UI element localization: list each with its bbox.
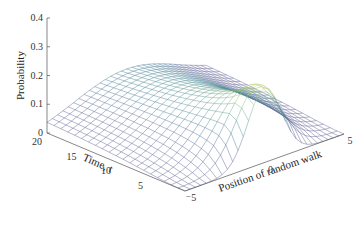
- mesh-line: [174, 97, 179, 101]
- mesh-line: [211, 91, 216, 94]
- mesh-line: [160, 126, 167, 129]
- mesh-line: [122, 119, 127, 124]
- mesh-line: [139, 117, 146, 120]
- mesh-line: [131, 102, 136, 107]
- mesh-line: [227, 162, 232, 170]
- mesh-line: [150, 82, 155, 85]
- mesh-line: [63, 111, 70, 114]
- mesh-line: [119, 84, 126, 86]
- mesh-line: [168, 80, 173, 82]
- mesh-line: [114, 88, 121, 90]
- mesh-line: [151, 171, 156, 174]
- mesh-line: [137, 163, 142, 167]
- mesh-line: [112, 106, 119, 109]
- mesh-line: [151, 70, 156, 71]
- mesh-line: [110, 98, 117, 101]
- mesh-line: [73, 124, 78, 128]
- mesh-line: [142, 163, 149, 167]
- mesh-line: [112, 79, 117, 82]
- mesh-line: [226, 145, 233, 162]
- mesh-line: [80, 128, 85, 132]
- mesh-line: [138, 104, 143, 109]
- mesh-line: [205, 128, 212, 132]
- mesh-line: [125, 140, 132, 144]
- mesh-line: [178, 89, 183, 92]
- mesh-line: [133, 71, 140, 73]
- mesh-line: [102, 145, 107, 149]
- mesh-line: [192, 92, 197, 95]
- mesh-line: [85, 123, 90, 127]
- mesh-line: [149, 167, 156, 171]
- mesh-line: [187, 173, 192, 177]
- mesh-line: [187, 177, 194, 182]
- mesh-line: [92, 127, 97, 131]
- mesh-line: [289, 106, 296, 110]
- mesh-line: [209, 89, 214, 90]
- mesh-line: [163, 72, 170, 74]
- mesh-line: [70, 110, 75, 114]
- mesh-line: [105, 98, 110, 102]
- mesh-line: [210, 170, 217, 179]
- mesh-line: [151, 70, 158, 72]
- mesh-line: [52, 115, 57, 119]
- mesh-line: [100, 83, 107, 86]
- mesh-line: [177, 182, 184, 186]
- mesh-line: [148, 123, 153, 129]
- mesh-line: [153, 150, 158, 155]
- mesh-line: [193, 100, 200, 101]
- mesh-line: [130, 130, 135, 135]
- mesh-line: [165, 75, 172, 77]
- mesh-line: [166, 158, 171, 163]
- mesh-line: [70, 114, 77, 117]
- mesh-line: [130, 135, 137, 138]
- mesh-line: [109, 148, 114, 152]
- mesh-line: [98, 96, 103, 100]
- mesh-line: [204, 93, 211, 94]
- mesh-line: [169, 102, 174, 107]
- mesh-line: [161, 98, 168, 100]
- mesh-line: [157, 109, 164, 112]
- mesh-line: [154, 159, 159, 163]
- mesh-line: [164, 179, 169, 182]
- mesh-line: [124, 104, 131, 107]
- time-tick-label: 15: [67, 151, 77, 162]
- mesh-line: [153, 74, 160, 76]
- mesh-line: [311, 137, 318, 143]
- mesh-line: [332, 131, 337, 133]
- mesh-line: [163, 144, 170, 148]
- mesh-line: [104, 130, 111, 133]
- mesh-line: [121, 148, 126, 152]
- mesh-line: [172, 77, 179, 79]
- mesh-line: [123, 73, 128, 76]
- mesh-line: [96, 93, 103, 96]
- mesh-line: [112, 101, 117, 106]
- mesh-line: [146, 146, 151, 151]
- mesh-line: [59, 118, 64, 122]
- mesh-line: [156, 135, 161, 141]
- mesh-line: [137, 66, 144, 68]
- mesh-line: [150, 102, 155, 107]
- mesh-line: [222, 169, 227, 174]
- mesh-line: [214, 136, 219, 146]
- mesh-line: [180, 97, 187, 99]
- mesh-line: [139, 68, 144, 69]
- mesh-line: [223, 112, 230, 113]
- mesh-line: [160, 120, 165, 126]
- mesh-line: [87, 104, 92, 108]
- mesh-line: [108, 141, 113, 145]
- mesh-line: [325, 129, 332, 133]
- mesh-line: [310, 117, 317, 121]
- mesh-line: [127, 67, 132, 69]
- mesh-line: [116, 156, 123, 160]
- mesh-line: [162, 69, 169, 71]
- mesh-line: [207, 140, 214, 145]
- time-tick-label: 5: [138, 180, 143, 191]
- mesh-line: [173, 167, 180, 172]
- mesh-line: [184, 119, 191, 122]
- mesh-line: [159, 92, 166, 94]
- mesh-line: [122, 97, 129, 100]
- mesh-line: [127, 143, 132, 148]
- mesh-line: [144, 170, 151, 174]
- mesh-line: [161, 163, 166, 167]
- mesh-line: [129, 127, 136, 130]
